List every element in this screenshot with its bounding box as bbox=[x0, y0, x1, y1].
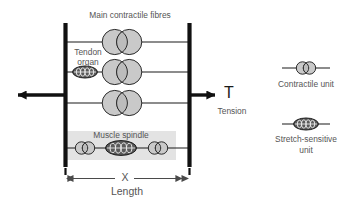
contractile-unit-row3 bbox=[102, 90, 142, 115]
legend-stretch-icon bbox=[294, 118, 319, 130]
spindle-stretch-sensitive-unit bbox=[106, 141, 137, 156]
contractile-unit-row2 bbox=[102, 59, 142, 84]
label-tendon-organ-line2: organ bbox=[77, 57, 99, 67]
spindle-contractile-unit-left bbox=[75, 142, 94, 154]
label-tension-word: Tension bbox=[218, 106, 247, 116]
legend-contractile-unit: Contractile unit bbox=[278, 62, 335, 89]
fiber-row-3 bbox=[67, 90, 188, 115]
label-length-word: Length bbox=[111, 185, 143, 197]
spindle-contractile-unit-right bbox=[148, 142, 167, 154]
muscle-model-diagram: Contractile unit Stretch-sensitive unit … bbox=[0, 0, 357, 202]
label-main-contractile-fibres: Main contractile fibres bbox=[89, 10, 170, 20]
legend-stretch-label-line2: unit bbox=[299, 145, 313, 155]
legend-stretch-label-line1: Stretch-sensitive bbox=[275, 134, 337, 144]
legend-contractile-label: Contractile unit bbox=[278, 79, 335, 89]
label-tendon-organ-line1: Tendon bbox=[74, 47, 102, 57]
legend-contractile-icon bbox=[296, 62, 315, 74]
diagram-canvas: Contractile unit Stretch-sensitive unit … bbox=[0, 0, 357, 202]
legend-stretch-sensitive-unit: Stretch-sensitive unit bbox=[275, 118, 337, 155]
tendon-organ-unit bbox=[73, 66, 98, 78]
label-tension-symbol: T bbox=[224, 84, 234, 101]
contractile-unit-row1 bbox=[102, 29, 142, 54]
label-length-symbol: X bbox=[121, 171, 128, 183]
label-muscle-spindle: Muscle spindle bbox=[93, 130, 149, 140]
